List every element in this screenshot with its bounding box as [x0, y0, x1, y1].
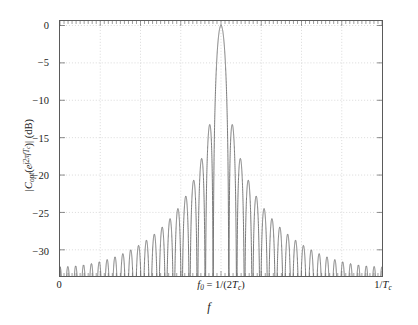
- x-axis-tick-labels: 0 f0 = 1/(2Tc) 1/Tc: [59, 279, 383, 301]
- x-axis-title: f: [0, 300, 418, 315]
- plot-area: [59, 20, 383, 277]
- x-tick-1overTc: 1/Tc: [374, 279, 391, 292]
- y-tick-label: 0: [44, 19, 49, 30]
- y-tick-label: −30: [33, 245, 49, 256]
- y-tick-label: −5: [38, 57, 49, 68]
- x-tick-f0: f0 = 1/(2Tc): [197, 279, 244, 292]
- x-tick-0: 0: [56, 279, 61, 290]
- chart-figure: 0−5−10−15−20−25−30 |Copt(ej2πfTc)| (dB) …: [0, 0, 418, 325]
- y-axis-title: |Copt(ej2πfTc)| (dB): [22, 70, 36, 240]
- data-curve: [60, 21, 382, 276]
- response-curve: [60, 25, 382, 276]
